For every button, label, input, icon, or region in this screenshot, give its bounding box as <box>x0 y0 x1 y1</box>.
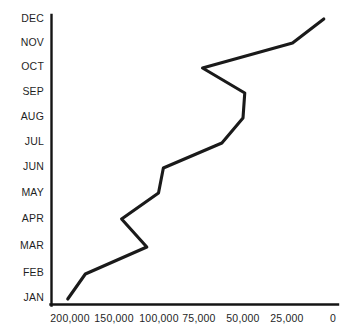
y-tick-label-apr: APR <box>22 212 44 224</box>
x-tick-label-150000: 150,000 <box>94 312 133 324</box>
y-tick-label-dec: DEC <box>21 12 44 24</box>
x-tick-label-50000: 50,000 <box>226 312 259 324</box>
x-tick-label-200000: 200,000 <box>50 312 89 324</box>
x-tick-label-75000: 75,000 <box>182 312 215 324</box>
y-tick-label-jul: JUL <box>25 135 44 147</box>
y-tick-label-nov: NOV <box>21 36 44 48</box>
x-tick-label-25000: 25,000 <box>270 312 303 324</box>
x-tick-label-100000: 100,000 <box>139 312 178 324</box>
y-tick-label-may: MAY <box>21 186 44 198</box>
chart-canvas: DEC NOV OCT SEP AUG JUL JUN MAY APR MAR … <box>0 0 349 335</box>
line-chart: DEC NOV OCT SEP AUG JUL JUN MAY APR MAR … <box>0 0 349 335</box>
y-tick-label-jun: JUN <box>23 160 44 172</box>
y-tick-label-aug: AUG <box>21 110 44 122</box>
y-tick-label-feb: FEB <box>23 266 44 278</box>
x-tick-label-0: 0 <box>330 312 336 324</box>
y-tick-label-oct: OCT <box>21 60 44 72</box>
y-tick-label-sep: SEP <box>22 85 44 97</box>
y-tick-label-mar: MAR <box>20 239 44 251</box>
y-tick-label-jan: JAN <box>24 291 44 303</box>
